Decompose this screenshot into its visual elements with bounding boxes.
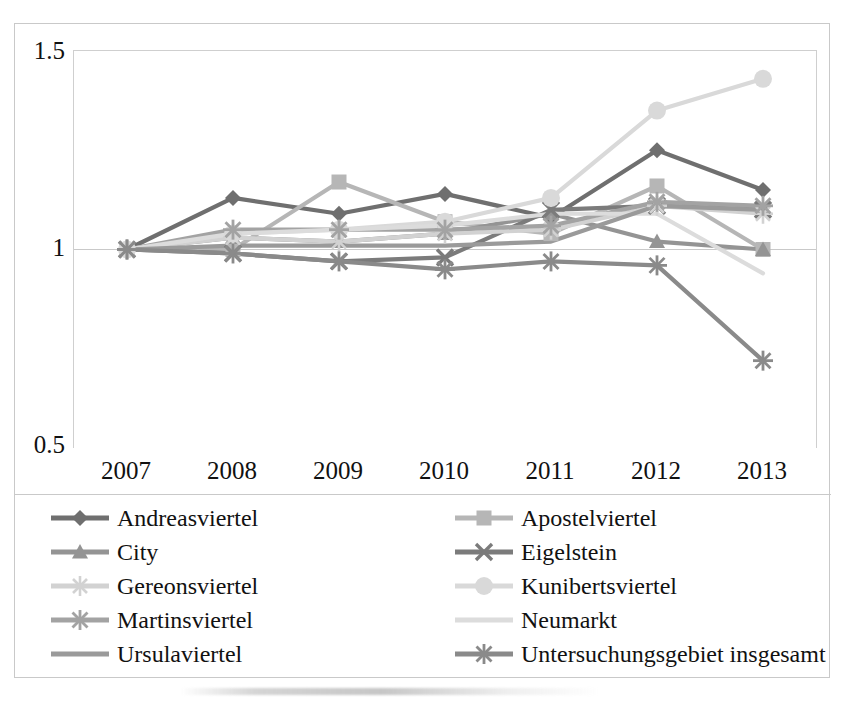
data-point-marker bbox=[223, 243, 243, 263]
chart-legend: AndreasviertelCityGereonsviertelMartinsv… bbox=[15, 494, 831, 678]
data-point-marker bbox=[329, 251, 349, 271]
legend-marker-icon bbox=[453, 541, 519, 563]
data-point-marker bbox=[754, 70, 772, 88]
x-tick-label: 2008 bbox=[207, 456, 257, 486]
plot-area bbox=[73, 50, 817, 448]
x-tick-label: 2007 bbox=[101, 456, 151, 486]
legend-item-label: City bbox=[117, 540, 158, 564]
legend-item[interactable]: City bbox=[49, 535, 449, 569]
data-point-marker bbox=[117, 240, 137, 260]
y-tick-label: 1.5 bbox=[34, 38, 65, 63]
data-point-marker bbox=[541, 216, 561, 236]
x-tick-label: 2013 bbox=[737, 456, 787, 486]
legend-item-label: Apostelviertel bbox=[521, 506, 657, 530]
data-point-marker bbox=[474, 644, 494, 664]
x-tick-label: 2010 bbox=[419, 456, 469, 486]
legend-item-label: Ursulaviertel bbox=[117, 642, 242, 666]
data-point-marker bbox=[332, 175, 347, 190]
legend-item-label: Martinsviertel bbox=[117, 608, 253, 632]
data-point-marker bbox=[648, 102, 666, 120]
legend-item-label: Eigelstein bbox=[521, 540, 617, 564]
legend-marker-icon bbox=[49, 507, 115, 529]
data-point-marker bbox=[223, 220, 243, 240]
legend-item-label: Neumarkt bbox=[521, 608, 617, 632]
legend-marker-icon bbox=[49, 643, 115, 665]
data-point-marker bbox=[647, 192, 667, 212]
data-point-marker bbox=[753, 351, 773, 371]
legend-item-label: Gereonsviertel bbox=[117, 574, 258, 598]
data-point-marker bbox=[331, 206, 347, 222]
legend-item[interactable]: Martinsviertel bbox=[49, 603, 449, 637]
x-tick-label: 2009 bbox=[313, 456, 363, 486]
legend-column-left: AndreasviertelCityGereonsviertelMartinsv… bbox=[49, 501, 449, 671]
chart-figure: 1.5 1 0.5 2007200820092010201120122013 A… bbox=[14, 23, 830, 678]
y-axis: 1.5 1 0.5 bbox=[15, 24, 71, 479]
data-point-marker bbox=[329, 220, 349, 240]
data-point-marker bbox=[72, 510, 88, 526]
x-tick-label: 2011 bbox=[525, 456, 574, 486]
legend-item[interactable]: Ursulaviertel bbox=[49, 637, 449, 671]
legend-marker-icon bbox=[453, 507, 519, 529]
legend-item-label: Andreasviertel bbox=[117, 506, 258, 530]
legend-item-label: Kunibertsviertel bbox=[521, 574, 677, 598]
legend-item[interactable]: Untersuchungsgebiet insgesamt bbox=[453, 637, 831, 671]
data-point-marker bbox=[475, 577, 493, 595]
legend-marker-icon bbox=[453, 575, 519, 597]
data-point-marker bbox=[225, 190, 241, 206]
legend-marker-icon bbox=[49, 541, 115, 563]
data-point-marker bbox=[70, 610, 90, 630]
legend-item[interactable]: Apostelviertel bbox=[453, 501, 831, 535]
plot-block: 1.5 1 0.5 2007200820092010201120122013 bbox=[15, 24, 831, 479]
legend-item[interactable]: Eigelstein bbox=[453, 535, 831, 569]
data-point-marker bbox=[647, 255, 667, 275]
legend-item-label: Untersuchungsgebiet insgesamt bbox=[521, 642, 826, 666]
x-axis: 2007200820092010201120122013 bbox=[73, 456, 817, 492]
data-point-marker bbox=[650, 178, 665, 193]
data-point-marker bbox=[542, 189, 560, 207]
legend-marker-icon bbox=[453, 609, 519, 631]
chart-canvas bbox=[74, 51, 816, 448]
legend-marker-icon bbox=[49, 575, 115, 597]
data-point-marker bbox=[435, 220, 455, 240]
legend-marker-icon bbox=[453, 643, 519, 665]
x-tick-label: 2012 bbox=[631, 456, 681, 486]
legend-marker-icon bbox=[49, 609, 115, 631]
data-point-marker bbox=[541, 251, 561, 271]
legend-column-right: ApostelviertelEigelsteinKunibertsviertel… bbox=[453, 501, 831, 671]
data-point-marker bbox=[435, 259, 455, 279]
legend-item[interactable]: Neumarkt bbox=[453, 603, 831, 637]
y-tick-label: 0.5 bbox=[34, 432, 65, 457]
data-point-marker bbox=[477, 511, 492, 526]
legend-item[interactable]: Gereonsviertel bbox=[49, 569, 449, 603]
data-point-marker bbox=[755, 182, 771, 198]
legend-item[interactable]: Andreasviertel bbox=[49, 501, 449, 535]
y-tick-label: 1 bbox=[53, 235, 66, 260]
legend-item[interactable]: Kunibertsviertel bbox=[453, 569, 831, 603]
data-point-marker bbox=[437, 186, 453, 202]
data-point-marker bbox=[753, 196, 773, 216]
data-point-marker bbox=[70, 576, 90, 596]
scan-artifact bbox=[180, 688, 600, 695]
